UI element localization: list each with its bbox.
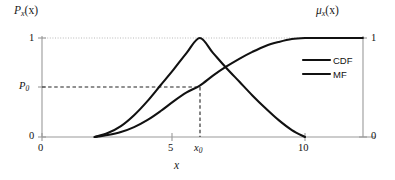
x-axis-tick-10: 10 (298, 143, 309, 154)
legend-item-cdf: CDF (333, 56, 353, 66)
y-axis-right-argument: (x) (325, 4, 338, 16)
legend-item-mf: MF (333, 70, 347, 80)
x-axis-tick-5: 5 (168, 143, 173, 154)
x-axis-tick-x0: x0 (194, 143, 202, 155)
x-axis-title: x (174, 160, 179, 172)
y-axis-left-tick-p0: P0 (19, 81, 29, 93)
x-axis-tick-x0-subscript: 0 (199, 146, 203, 155)
y-axis-left-title: Px(x) (14, 5, 38, 18)
x-axis-tick-0: 0 (38, 143, 43, 154)
y-axis-left-symbol: P (14, 4, 21, 16)
y-axis-right-tick-0: 0 (371, 131, 376, 142)
y-axis-right-tick-1: 1 (371, 33, 376, 44)
y-axis-left-tick-0: 0 (29, 131, 34, 142)
y-axis-left-tick-1: 1 (29, 33, 34, 44)
y-axis-left-tick-p0-subscript: 0 (25, 84, 29, 93)
y-axis-right-title: μx(x) (316, 5, 339, 18)
y-axis-left-argument: (x) (25, 4, 38, 16)
chart-figure: Px(x) μx(x) x 1 P0 0 1 0 0 5 x0 10 CDF M… (0, 0, 395, 180)
